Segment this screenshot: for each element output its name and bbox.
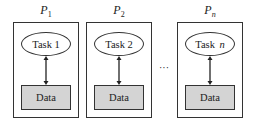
task-node-2: Task 2 <box>94 32 144 56</box>
process-subscript: n <box>212 10 216 19</box>
task-index: n <box>220 39 225 50</box>
task-node-1: Task 1 <box>21 32 71 56</box>
process-letter: P <box>113 3 120 17</box>
bidirectional-arrow-icon <box>209 56 211 85</box>
task-index: 1 <box>55 39 60 50</box>
process-subscript: 1 <box>48 10 52 19</box>
process-letter: P <box>40 3 47 17</box>
process-box-2: Task 2 Data <box>86 22 152 118</box>
data-block-1: Data <box>21 85 71 110</box>
bidirectional-arrow-icon <box>45 56 47 85</box>
bidirectional-arrow-icon <box>118 56 120 85</box>
process-box-n: Task n Data <box>177 22 243 118</box>
process-letter: P <box>204 3 211 17</box>
process-label-1: P1 <box>13 3 79 19</box>
process-box-1: Task 1 Data <box>13 22 79 118</box>
task-label: Task <box>195 39 215 50</box>
task-node-n: Task n <box>185 32 235 56</box>
process-subscript: 2 <box>121 10 125 19</box>
data-block-n: Data <box>185 85 235 110</box>
task-label: Task <box>105 39 125 50</box>
task-label: Task <box>32 39 52 50</box>
ellipsis: ··· <box>154 62 174 73</box>
data-block-2: Data <box>94 85 144 110</box>
process-label-2: P2 <box>86 3 152 19</box>
task-index: 2 <box>128 39 133 50</box>
process-label-n: Pn <box>177 3 243 19</box>
